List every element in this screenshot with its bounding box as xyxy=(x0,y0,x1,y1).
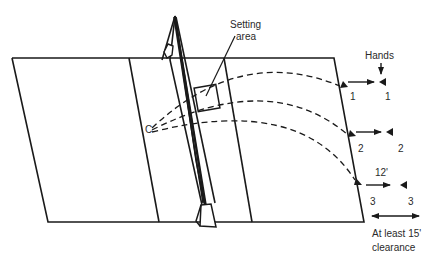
setting-area-label-line1: Setting xyxy=(230,19,261,31)
diagram-canvas: Setting area Hands C 1 1 2 2 12' 3 3 At … xyxy=(0,0,431,267)
position-3-left-label: 3 xyxy=(370,196,376,208)
catcher-label: C xyxy=(145,124,152,136)
catch-marker-2 xyxy=(348,130,356,137)
position-3-right-label: 3 xyxy=(408,196,414,208)
position-1-left-label: 1 xyxy=(350,91,356,103)
divider-line-right xyxy=(224,58,252,222)
hand-marker-1 xyxy=(379,78,386,86)
position-2-right-label: 2 xyxy=(398,143,404,155)
setting-area-label-line2: area xyxy=(236,31,256,43)
catch-marker-3 xyxy=(354,178,362,185)
position-1-right-label: 1 xyxy=(385,91,391,103)
hand-marker-3 xyxy=(400,181,407,189)
diagram-drawing xyxy=(0,0,431,267)
position-2-left-label: 2 xyxy=(358,143,364,155)
clearance-label-line1: At least 15' xyxy=(372,228,421,240)
throw-path-1 xyxy=(152,72,340,128)
throw-paths xyxy=(152,72,355,180)
clearance-label-line2: clearance xyxy=(372,242,415,254)
catch-marker-1 xyxy=(340,81,348,88)
hands-label: Hands xyxy=(365,50,394,62)
hand-marker-2 xyxy=(386,128,393,136)
setting-area-box xyxy=(194,84,220,111)
divider-line-left xyxy=(129,58,159,222)
throw-path-3 xyxy=(152,121,355,180)
throw-path-2 xyxy=(152,101,347,134)
distance-12-label: 12' xyxy=(375,167,388,179)
base-weight xyxy=(196,204,216,227)
